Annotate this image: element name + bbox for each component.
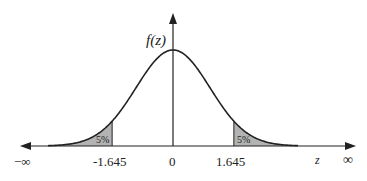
- tick-pos-infinity: ∞: [343, 152, 353, 167]
- left-arrow-icon: [20, 142, 31, 150]
- y-axis: [169, 13, 177, 146]
- right-region-label: 5%: [237, 134, 250, 145]
- tick-zero: 0: [169, 154, 176, 169]
- up-arrow-icon: [169, 13, 177, 24]
- tick-pos-1645: 1.645: [216, 154, 245, 169]
- left-region-label: 5%: [96, 134, 109, 145]
- y-axis-label: f(z): [146, 32, 166, 49]
- normal-distribution-diagram: f(z) z −∞ -1.645 0 1.645 ∞ 5% 5%: [0, 0, 367, 181]
- x-axis-label: z: [314, 153, 320, 167]
- tick-neg-1645: -1.645: [93, 154, 127, 169]
- tick-neg-infinity: −∞: [14, 154, 31, 169]
- right-arrow-icon: [345, 142, 356, 150]
